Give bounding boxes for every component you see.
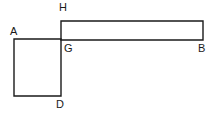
vertex-label-d: D [56,99,64,110]
left-square [14,39,61,96]
vertex-label-a: A [10,26,17,37]
geometry-figure: A H G B D [0,0,214,118]
horizontal-rectangle [61,21,203,40]
figure-canvas [0,0,214,118]
vertex-label-g: G [64,43,73,54]
vertex-label-h: H [59,2,67,13]
vertex-label-b: B [198,43,205,54]
